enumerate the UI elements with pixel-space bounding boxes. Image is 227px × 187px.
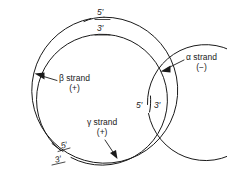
circular-nucleic-acid-diagram: 5′ 3′ 5′ 3′ 5′ 3′ α strand (−) β strand … [0,0,227,187]
beta-strand-sign: (+) [59,84,90,94]
alpha-strand-sign: (−) [186,63,217,73]
diagram-canvas [0,0,227,187]
alpha-strand-arc [32,17,178,163]
gamma-leader-line [105,140,113,152]
top-five-prime-label: 5′ [97,8,103,18]
alpha-strand-label: α strand (−) [186,53,217,73]
beta-strand-label: β strand (+) [59,74,90,94]
right-three-prime-label: 3′ [154,101,160,111]
alpha-strand-name: α strand [186,52,217,62]
alpha-arrow-head [161,66,171,73]
gamma-strand-label: γ strand (+) [87,118,117,138]
top-three-prime-label: 3′ [97,24,103,34]
gamma-strand-name: γ strand [87,117,117,127]
gamma-arrow-head [110,150,118,159]
gamma-strand-sign: (+) [87,128,117,138]
gamma-strand-three-prime-tail [150,96,151,112]
right-five-prime-label: 5′ [136,101,142,111]
beta-strand-name: β strand [59,73,90,83]
